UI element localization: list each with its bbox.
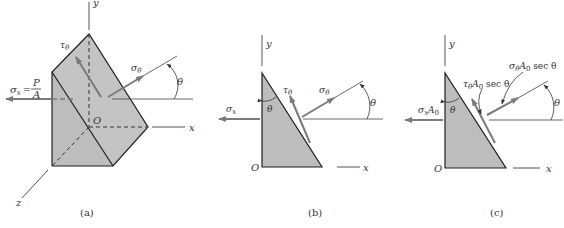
a-label: A bbox=[32, 89, 40, 100]
p-label: P bbox=[32, 77, 40, 88]
sigma-x-label: σx= bbox=[10, 84, 31, 97]
angle-arc bbox=[360, 84, 370, 119]
x-axis-label: x bbox=[546, 163, 552, 174]
wedge-element bbox=[262, 73, 322, 167]
y-axis-label: y bbox=[265, 38, 272, 49]
origin-label: O bbox=[434, 163, 442, 174]
figure-c: y x O θ σxA0 τθA0 sec θ σθA0 sec θ θ (c) bbox=[405, 35, 563, 218]
theta-label: θ bbox=[370, 97, 376, 108]
normal-direction-line bbox=[143, 56, 177, 76]
tau-force-label: τθA0 sec θ bbox=[463, 79, 509, 91]
sigma-theta-force-label: σθA0 sec θ bbox=[509, 61, 556, 73]
origin-label: O bbox=[93, 115, 101, 126]
figure-b: y x O θ σx τθ σθ θ (b) bbox=[219, 35, 383, 218]
inner-theta-label: θ bbox=[450, 105, 456, 115]
tau-label: τθ bbox=[283, 85, 293, 97]
tau-label: τθ bbox=[60, 40, 70, 52]
y-axis-label: y bbox=[92, 0, 99, 8]
theta-label: θ bbox=[554, 97, 560, 108]
caption-b: (b) bbox=[308, 207, 322, 218]
sigma-theta-label: σθ bbox=[131, 63, 142, 75]
stress-element-diagram: x y z O σx= P A τθ σθ θ (a) y x O bbox=[0, 0, 564, 228]
normal-direction-line bbox=[334, 81, 363, 98]
z-axis-label: z bbox=[15, 197, 22, 208]
caption-c: (c) bbox=[490, 207, 504, 218]
x-axis-label: x bbox=[189, 122, 195, 133]
tau-leader-line bbox=[479, 89, 482, 114]
angle-arc bbox=[544, 85, 554, 120]
y-axis-label: y bbox=[448, 38, 455, 49]
sigma-theta-force-arrow bbox=[487, 98, 518, 115]
sigma-theta-label: σθ bbox=[319, 85, 330, 97]
x-axis-label: x bbox=[363, 162, 369, 173]
sigma-theta-arrow bbox=[302, 98, 334, 117]
sigma-x-force-label: σxA0 bbox=[418, 105, 439, 117]
inner-theta-label: θ bbox=[267, 104, 273, 114]
origin-label: O bbox=[251, 162, 259, 173]
normal-direction-line bbox=[518, 81, 548, 98]
sigma-x-label: σx bbox=[226, 104, 236, 116]
theta-label: θ bbox=[177, 76, 183, 87]
figure-a: x y z O σx= P A τθ σθ θ (a) bbox=[6, 0, 195, 218]
caption-a: (a) bbox=[80, 207, 94, 218]
z-axis-line bbox=[22, 170, 48, 198]
